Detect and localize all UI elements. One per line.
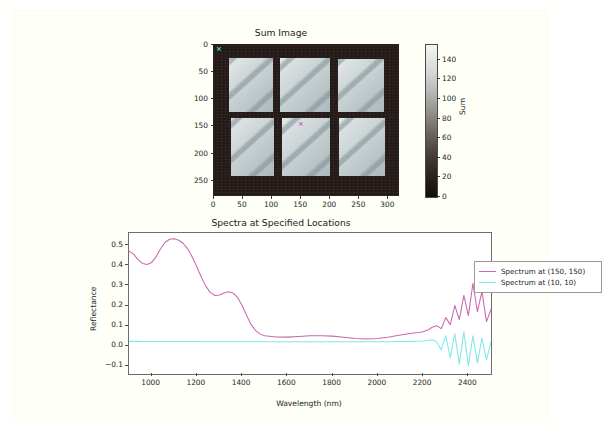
sum-xtick-label: 250 (343, 200, 373, 209)
tile-streaks (339, 118, 386, 176)
sum-ytick-mark (211, 44, 214, 45)
sum-ytick-label: 0 (173, 40, 208, 49)
tile-streaks (231, 118, 275, 176)
colorbar-tick-label: 140 (442, 55, 464, 64)
spectra-xtick-label: 1000 (131, 378, 171, 387)
sum-ytick-mark (211, 153, 214, 154)
spectra-xtick-mark (241, 373, 242, 376)
legend-label-1: Spectrum at (10, 10) (501, 278, 576, 287)
spectra-ytick-mark (125, 264, 128, 265)
colorbar-tick-label: 20 (442, 172, 464, 181)
sum-xtick-label: 150 (285, 200, 315, 209)
sum-ytick-label: 250 (173, 176, 208, 185)
colorbar-tick-label: 40 (442, 153, 464, 162)
spectra-xtick-mark (422, 373, 423, 376)
sum-ytick-label: 150 (173, 121, 208, 130)
sum-image-title: Sum Image (15, 27, 547, 38)
image-tile (280, 58, 330, 113)
colorbar-tick-mark (437, 118, 440, 119)
image-tile (339, 118, 386, 176)
spectra-axes: Spectrum at (150, 150)Spectrum at (10, 1… (128, 232, 492, 375)
sum-ytick-mark (211, 125, 214, 126)
spectra-xtick-label: 2000 (357, 378, 397, 387)
figure-paper: Sum Image (14, 10, 548, 420)
spectra-ytick-label: 0.3 (90, 280, 123, 289)
spectra-ytick-mark (125, 284, 128, 285)
sum-image-axes: × × (213, 44, 399, 196)
legend-label-0: Spectrum at (150, 150) (501, 267, 585, 276)
colorbar-tick-mark (437, 176, 440, 177)
image-tile (338, 59, 385, 112)
colorbar-tick-label: 80 (442, 114, 464, 123)
colorbar-tick-mark (437, 157, 440, 158)
colorbar-tick-label: 120 (442, 74, 464, 83)
image-tile (229, 58, 274, 113)
colorbar-tick-mark (437, 78, 440, 79)
tile-streaks (280, 58, 330, 113)
colorbar-tick-mark (437, 59, 440, 60)
image-tile (231, 118, 275, 176)
spectra-xtick-mark (151, 373, 152, 376)
spectra-ytick-label: 0.1 (90, 320, 123, 329)
sum-ytick-label: 200 (173, 149, 208, 158)
legend-item-0[interactable]: Spectrum at (150, 150) (479, 266, 596, 277)
legend-swatch-0 (479, 271, 496, 272)
spectra-ytick-mark (125, 345, 128, 346)
spectrum-line-1 (129, 332, 491, 366)
sum-ytick-label: 100 (173, 94, 208, 103)
spectra-xtick-mark (332, 373, 333, 376)
spectra-title: Spectra at Specified Locations (15, 217, 547, 228)
spectra-ytick-label: 0.2 (90, 300, 123, 309)
spectra-xlabel: Wavelength (nm) (128, 399, 490, 408)
sum-ytick-mark (211, 71, 214, 72)
spectra-xtick-mark (196, 373, 197, 376)
sum-ytick-mark (211, 98, 214, 99)
tile-streaks (229, 58, 274, 113)
marker-10-10: × (216, 46, 222, 53)
spectra-xtick-label: 2200 (402, 378, 442, 387)
sum-ytick-label: 50 (173, 67, 208, 76)
spectra-xtick-label: 2400 (447, 378, 487, 387)
sum-image-panel: Sum Image (15, 11, 547, 216)
colorbar-tick-label: 0 (442, 192, 464, 201)
legend-item-1[interactable]: Spectrum at (10, 10) (479, 277, 596, 288)
spectra-xtick-label: 1800 (312, 378, 352, 387)
spectrum-line-0 (129, 239, 491, 339)
spectra-ytick-mark (125, 365, 128, 366)
sum-xtick-mark (300, 196, 301, 199)
tile-streaks (282, 118, 330, 176)
sum-xtick-label: 0 (198, 200, 228, 209)
spectra-ytick-label: −0.1 (90, 360, 123, 369)
spectra-ytick-label: 0.4 (90, 260, 123, 269)
spectra-xtick-label: 1400 (221, 378, 261, 387)
sum-xtick-mark (329, 196, 330, 199)
spectra-xtick-label: 1600 (266, 378, 306, 387)
tile-streaks (338, 59, 385, 112)
colorbar-tick-mark (437, 196, 440, 197)
spectra-xtick-mark (467, 373, 468, 376)
sum-ytick-mark (211, 180, 214, 181)
spectra-ytick-mark (125, 244, 128, 245)
spectra-panel: Spectra at Specified Locations Spectrum … (15, 209, 547, 419)
spectra-legend: Spectrum at (150, 150)Spectrum at (10, 1… (474, 261, 602, 293)
spectra-ytick-mark (125, 305, 128, 306)
sum-xtick-mark (213, 196, 214, 199)
image-tile (282, 118, 330, 176)
spectra-xtick-mark (377, 373, 378, 376)
spectra-ytick-label: 0.0 (90, 340, 123, 349)
sum-xtick-mark (358, 196, 359, 199)
colorbar-tick-label: 100 (442, 94, 464, 103)
colorbar-tick-label: 60 (442, 133, 464, 142)
legend-swatch-1 (479, 282, 496, 283)
sum-xtick-label: 100 (256, 200, 286, 209)
sum-xtick-label: 200 (314, 200, 344, 209)
spectra-ytick-mark (125, 325, 128, 326)
sum-xtick-mark (387, 196, 388, 199)
spectra-plot-svg (129, 233, 491, 374)
spectra-ytick-label: 0.5 (90, 240, 123, 249)
marker-150-150: × (298, 121, 304, 128)
sum-xtick-label: 300 (372, 200, 402, 209)
sum-xtick-mark (242, 196, 243, 199)
spectra-xtick-mark (286, 373, 287, 376)
